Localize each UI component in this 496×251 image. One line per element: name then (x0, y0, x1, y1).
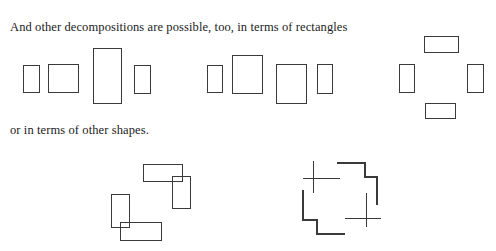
group-row-of-four-rectangles-left (24, 49, 151, 104)
caption-rectangles: And other decompositions are possible, t… (10, 20, 347, 35)
rect-d2-vertical (173, 177, 191, 209)
group-cross-arrangement-right (400, 37, 484, 119)
rect-a3 (94, 49, 122, 104)
rect-c-bottom (426, 104, 456, 119)
figure-page: And other decompositions are possible, t… (0, 0, 496, 251)
group-two-l-shapes-left (112, 165, 191, 241)
rect-d3-vertical (112, 195, 130, 228)
rect-c-right (468, 65, 484, 93)
group-row-of-four-rectangles-middle (208, 56, 333, 104)
rect-b2 (233, 56, 263, 94)
step-upper-right-polyline (337, 163, 377, 205)
group-pinwheel-with-crosses-right (303, 161, 381, 234)
rect-b4 (318, 65, 333, 94)
rect-a4 (135, 66, 151, 94)
caption-shapes: or in terms of other shapes. (10, 123, 149, 138)
rect-d1-horizontal (144, 165, 183, 182)
rect-a2 (49, 65, 79, 93)
rect-b3 (277, 65, 307, 104)
rect-c-top (425, 37, 459, 53)
rect-a1 (24, 66, 40, 93)
rect-b1 (208, 66, 223, 93)
rect-c-left (400, 65, 415, 93)
step-lower-left-polyline (303, 190, 345, 234)
rect-d4-horizontal (121, 223, 162, 241)
